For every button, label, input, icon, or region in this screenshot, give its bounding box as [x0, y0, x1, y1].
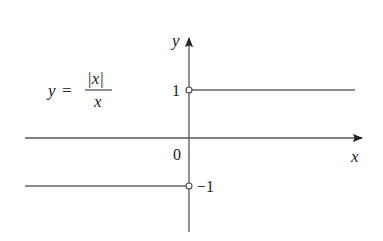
origin-label: 0 — [173, 146, 181, 163]
graph-canvas: y x 0 1 −1 y = |x| x — [0, 0, 383, 241]
open-circle-negative — [186, 183, 192, 189]
tick-label-one: 1 — [172, 82, 180, 99]
equation-lhs: y — [46, 81, 56, 100]
open-circle-positive — [186, 87, 192, 93]
equation-numerator: |x| — [87, 69, 104, 88]
equation-equals: = — [62, 81, 72, 100]
equation-denominator: x — [93, 92, 102, 111]
equation: y = |x| x — [46, 69, 112, 111]
tick-label-neg-one: −1 — [197, 178, 214, 195]
x-axis-label: x — [350, 147, 359, 166]
y-axis-label: y — [170, 31, 180, 50]
